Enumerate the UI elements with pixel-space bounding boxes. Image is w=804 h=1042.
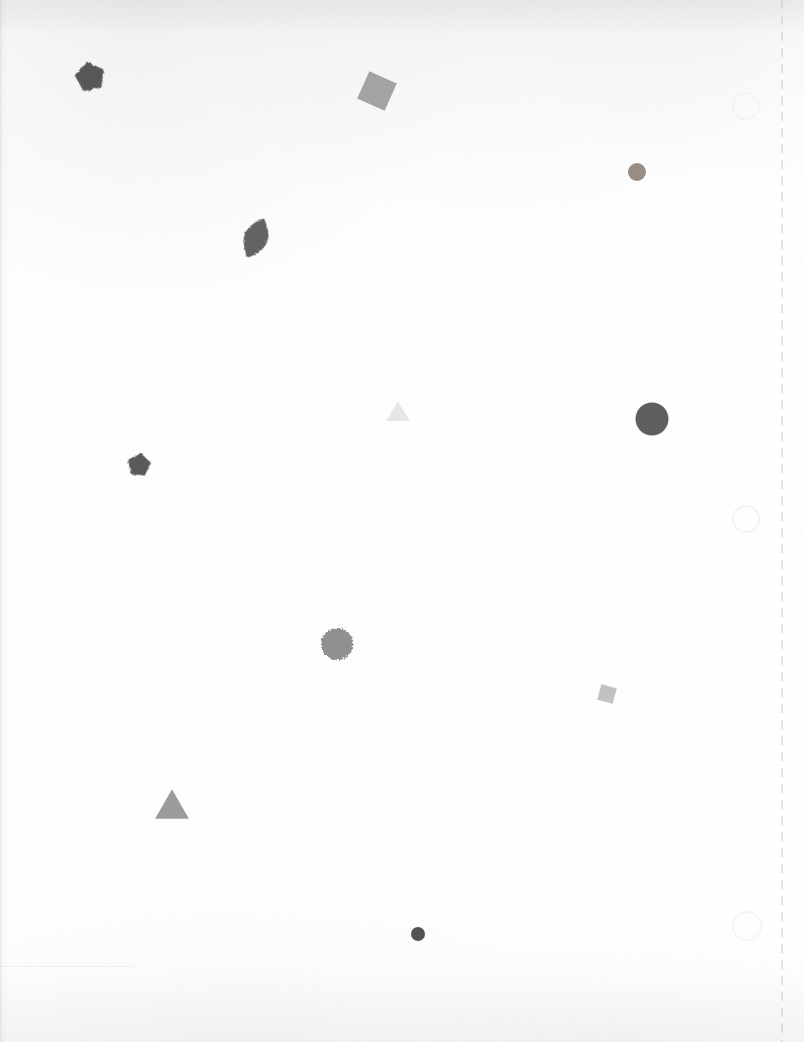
pentagon-dark-top-left-glyph [72, 59, 106, 92]
square-small-light-right-glyph [597, 684, 617, 704]
triangle-gray-lower-left-glyph [155, 789, 189, 818]
square-gray-rotated-top-glyph [357, 71, 397, 111]
ring-mark-3 [732, 911, 762, 941]
leaf-lens-dark-upper-left-glyph [237, 214, 275, 262]
leaf-lens-dark-upper-left[interactable] [208, 190, 304, 286]
ring-mark-2 [732, 505, 760, 533]
pentagon-dark-top-left[interactable] [48, 35, 132, 119]
square-gray-rotated-top[interactable] [333, 47, 421, 135]
circle-small-dark-bottom[interactable] [390, 906, 446, 962]
circle-textured-center[interactable] [291, 598, 383, 690]
circle-small-dark-bottom-glyph [411, 927, 425, 941]
pentagon-dark-mid-left-glyph [126, 451, 152, 476]
triangle-gray-lower-left[interactable] [126, 758, 218, 850]
circle-large-dark-right-glyph [636, 403, 669, 436]
scan-grain-texture [0, 0, 804, 1042]
square-small-light-right[interactable] [577, 664, 637, 724]
triangle-faint-center-glyph [386, 401, 409, 421]
ring-mark-1 [732, 92, 760, 120]
circle-large-dark-right[interactable] [605, 372, 699, 466]
vertical-dashed-guide-line [781, 0, 783, 1042]
paper-background [0, 0, 804, 1042]
circle-textured-center-glyph [321, 628, 353, 660]
bottom-scan-smudge [0, 972, 804, 1042]
top-scan-smudge [0, 0, 804, 36]
scanned-page-canvas [0, 0, 804, 1042]
left-edge-shadow [0, 0, 3, 1042]
pentagon-dark-mid-left[interactable] [103, 429, 175, 501]
triangle-faint-center[interactable] [362, 375, 434, 447]
faint-streak-upper-left [0, 966, 132, 967]
circle-small-brownish-upper-right[interactable] [605, 140, 669, 204]
circle-small-brownish-upper-right-glyph [628, 163, 646, 181]
